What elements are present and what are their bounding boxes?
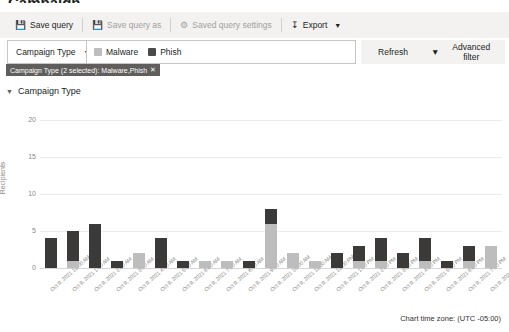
campaign-type-section-title: Campaign Type: [18, 86, 81, 96]
bar-column[interactable]: [133, 253, 144, 268]
campaign-type-section-header[interactable]: ▼ Campaign Type: [6, 86, 81, 96]
bar-column[interactable]: [177, 261, 188, 268]
bar-column[interactable]: [441, 261, 452, 268]
saved-query-settings-button[interactable]: ⚙ Saved query settings: [173, 14, 278, 36]
refresh-label: Refresh: [378, 47, 408, 57]
command-separator: [82, 18, 83, 32]
advanced-filter-label: Advanced filter: [443, 42, 499, 62]
bar-column[interactable]: [199, 261, 210, 268]
save-icon: 💾: [15, 21, 26, 30]
bar-column[interactable]: [155, 238, 166, 268]
page-title: Campaign: [8, 0, 81, 3]
bar-segment-phish[interactable]: [177, 261, 188, 268]
bar-segment-malware[interactable]: [353, 261, 364, 268]
y-axis-tick: 20: [2, 116, 36, 123]
bar-column[interactable]: [309, 261, 320, 268]
chart-plot-area: 05101520Oct 9, 2021 12:00 AMOct 9, 2021 …: [40, 120, 502, 268]
bar-segment-malware[interactable]: [133, 253, 144, 268]
refresh-button[interactable]: Refresh: [361, 40, 425, 64]
checkbox-checked-icon: [94, 48, 102, 56]
bar-column[interactable]: [45, 238, 56, 268]
download-icon: ↧: [291, 21, 299, 30]
bar-segment-phish[interactable]: [111, 261, 122, 268]
bar-column[interactable]: [265, 209, 276, 268]
selected-filter-tag-label: Campaign Type (2 selected): Malware,Phis…: [10, 67, 147, 74]
save-query-as-label: Save query as: [107, 20, 161, 30]
y-axis-tick: 0: [2, 264, 36, 271]
campaign-type-chart: Recipients 05101520Oct 9, 2021 12:00 AMO…: [0, 104, 509, 332]
token-phish-label: Phish: [160, 47, 181, 57]
advanced-filter-button[interactable]: ▼ Advanced filter: [425, 40, 505, 64]
bar-segment-malware[interactable]: [419, 261, 430, 268]
bar-segment-malware[interactable]: [199, 261, 210, 268]
bar-segment-phish[interactable]: [353, 246, 364, 261]
bar-segment-phish[interactable]: [155, 238, 166, 268]
chart-timezone-note: Chart time zone: (UTC -05:00): [400, 314, 501, 323]
bar-column[interactable]: [111, 261, 122, 268]
bar-segment-malware[interactable]: [309, 261, 320, 268]
bar-segment-phish[interactable]: [67, 231, 78, 261]
chevron-down-icon: ▼: [6, 88, 13, 95]
save-query-as-button[interactable]: 💾 Save query as: [85, 14, 168, 36]
bar-column[interactable]: [331, 253, 342, 268]
funnel-icon: ▼: [431, 47, 439, 57]
bar-segment-phish[interactable]: [45, 238, 56, 268]
close-icon[interactable]: ✕: [150, 66, 156, 74]
bar-segment-malware[interactable]: [221, 261, 232, 268]
bar-segment-malware[interactable]: [485, 246, 496, 268]
export-button[interactable]: ↧ Export ▼: [284, 14, 349, 36]
bar-column[interactable]: [67, 231, 78, 268]
gear-icon: ⚙: [180, 21, 188, 30]
saved-query-settings-label: Saved query settings: [192, 20, 271, 30]
bar-segment-malware[interactable]: [67, 261, 78, 268]
bar-column[interactable]: [89, 224, 100, 268]
save-query-label: Save query: [30, 20, 73, 30]
bar-segment-malware[interactable]: [463, 261, 474, 268]
selected-values-box[interactable]: Malware Phish: [86, 40, 356, 64]
chevron-down-icon: ▼: [334, 22, 341, 29]
bar-segment-phish[interactable]: [397, 253, 408, 268]
command-separator: [170, 18, 171, 32]
bar-column[interactable]: [397, 253, 408, 268]
y-axis-tick: 10: [2, 190, 36, 197]
export-label: Export: [303, 20, 328, 30]
bar-column[interactable]: [419, 238, 430, 268]
gridline: [40, 194, 502, 195]
token-phish[interactable]: Phish: [148, 47, 181, 57]
command-bar: 💾 Save query 💾 Save query as ⚙ Saved que…: [0, 12, 509, 38]
save-query-button[interactable]: 💾 Save query: [8, 14, 80, 36]
token-malware[interactable]: Malware: [94, 47, 138, 57]
command-separator: [281, 18, 282, 32]
bar-segment-phish[interactable]: [265, 209, 276, 224]
bar-segment-phish[interactable]: [441, 261, 452, 268]
bar-column[interactable]: [353, 246, 364, 268]
bar-segment-phish[interactable]: [243, 261, 254, 268]
bar-segment-malware[interactable]: [265, 224, 276, 268]
campaign-explorer-page: Campaign 💾 Save query 💾 Save query as ⚙ …: [0, 0, 509, 332]
bar-column[interactable]: [243, 261, 254, 268]
bar-segment-phish[interactable]: [419, 238, 430, 260]
selected-filter-tag: Campaign Type (2 selected): Malware,Phis…: [6, 64, 160, 76]
filter-bar: Campaign Type ▼ Malware Phish Refresh ▼ …: [0, 40, 509, 64]
y-axis-tick: 5: [2, 227, 36, 234]
bar-column[interactable]: [463, 246, 474, 268]
bar-column[interactable]: [287, 253, 298, 268]
bar-segment-phish[interactable]: [463, 246, 474, 261]
bar-column[interactable]: [375, 238, 386, 268]
gridline: [40, 157, 502, 158]
bar-column[interactable]: [485, 246, 496, 268]
campaign-type-select-label: Campaign Type: [16, 47, 75, 57]
token-malware-label: Malware: [106, 47, 138, 57]
gridline: [40, 120, 502, 121]
bar-segment-malware[interactable]: [287, 253, 298, 268]
bar-segment-phish[interactable]: [375, 238, 386, 260]
y-axis-tick: 15: [2, 153, 36, 160]
bar-segment-phish[interactable]: [89, 224, 100, 268]
bar-column[interactable]: [221, 261, 232, 268]
bar-segment-phish[interactable]: [331, 253, 342, 268]
bar-segment-malware[interactable]: [375, 261, 386, 268]
checkbox-checked-icon: [148, 48, 156, 56]
save-as-icon: 💾: [92, 21, 103, 30]
